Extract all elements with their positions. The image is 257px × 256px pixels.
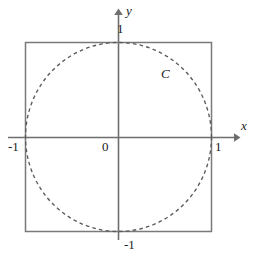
x-tick-label-positive-one: 1: [215, 140, 222, 153]
figure-canvas: y 1 x 1 -1 -1 0 C: [0, 0, 257, 256]
origin-label: 0: [102, 140, 109, 153]
y-tick-label-positive-one: 1: [117, 22, 124, 35]
x-tick-label-negative-one: -1: [8, 140, 19, 153]
y-axis-arrowhead: [114, 9, 123, 16]
coordinate-diagram: [0, 0, 257, 256]
curve-label-c: C: [161, 67, 170, 80]
x-axis-label: x: [241, 119, 247, 132]
x-axis-arrowhead: [234, 133, 241, 142]
y-axis-label: y: [126, 4, 132, 17]
x-axis: [8, 133, 241, 142]
y-tick-label-negative-one: -1: [124, 238, 135, 251]
